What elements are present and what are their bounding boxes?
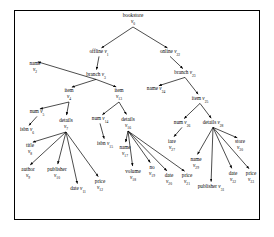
node-label: num xyxy=(92,115,101,121)
tree-node-v5: num v5 xyxy=(30,108,45,117)
tree-node-v20: datev20 xyxy=(165,172,174,188)
node-id: v6 xyxy=(30,126,34,132)
tree-node-v30: storev30 xyxy=(235,138,245,154)
figure-root: bookstorev0offline v1online v22namev2bra… xyxy=(0,0,274,237)
node-id: v22 xyxy=(174,48,180,54)
node-id: v18 xyxy=(125,174,141,183)
node-id: v8 xyxy=(26,148,34,157)
tree-edge-v28-v31 xyxy=(211,127,213,181)
tree-node-v11: date v11 xyxy=(70,185,86,194)
tree-node-v7: detailsv7 xyxy=(59,117,73,133)
tree-edge-v13-v14 xyxy=(102,102,119,115)
tree-node-v24: name v24 xyxy=(147,85,165,94)
tree-edge-v23-v25 xyxy=(185,77,198,94)
tree-node-v29: namev29 xyxy=(190,156,201,172)
node-id: v32 xyxy=(229,176,238,185)
node-id: v23 xyxy=(190,69,196,75)
tree-edge-v7-v8 xyxy=(33,132,66,142)
node-id: v30 xyxy=(235,144,245,153)
node-id: v0 xyxy=(123,18,143,27)
node-label: item xyxy=(192,95,201,101)
tree-edge-v23-v24 xyxy=(159,77,185,85)
node-id: v21 xyxy=(182,178,192,187)
tree-node-v27: iarev27 xyxy=(168,138,176,154)
tree-edge-v25-v28 xyxy=(200,103,211,118)
tree-node-v33: pricev33 xyxy=(246,170,256,186)
tree-node-v16: detailsv16 xyxy=(121,116,135,132)
tree-node-v2: namev2 xyxy=(29,60,40,76)
tree-node-v6: isbn v6 xyxy=(20,126,34,135)
tree-node-v31: publisher v31 xyxy=(198,183,225,192)
tree-node-v28: details v28 xyxy=(203,119,224,128)
tree-edge-v13-v16 xyxy=(119,102,126,114)
node-id: v15 xyxy=(107,140,113,146)
node-id: v31 xyxy=(218,183,224,189)
node-id: v5 xyxy=(40,108,44,114)
node-id: v26 xyxy=(184,119,190,125)
node-label: num xyxy=(174,119,183,125)
node-id: v19 xyxy=(149,170,155,179)
tree-edge-v1-v3 xyxy=(97,56,99,69)
node-label: num xyxy=(30,108,39,114)
node-id: v11 xyxy=(80,185,86,191)
node-id: v1 xyxy=(104,48,108,54)
node-id: v10 xyxy=(47,172,66,181)
tree-node-v17: namev17 xyxy=(119,144,130,160)
tree-edge-v25-v26 xyxy=(184,103,200,118)
node-id: v24 xyxy=(159,85,165,91)
node-id: v25 xyxy=(202,95,208,101)
node-id: v16 xyxy=(121,122,135,131)
node-label: publisher xyxy=(198,183,217,189)
node-id: v20 xyxy=(165,178,174,187)
node-label: branch xyxy=(86,71,100,77)
node-id: v17 xyxy=(119,150,130,159)
tree-edge-v5-v6 xyxy=(29,116,37,125)
tree-edge-v0-v22 xyxy=(133,27,167,48)
tree-edge-v28-v32 xyxy=(213,127,232,168)
tree-edge-v3-v4 xyxy=(72,79,96,87)
node-label: online xyxy=(160,48,173,54)
edge-layer xyxy=(0,0,274,237)
node-label: isbn xyxy=(97,140,106,146)
node-id: v4 xyxy=(64,93,73,102)
tree-node-v25: item v25 xyxy=(192,95,208,104)
tree-edge-v28-v30 xyxy=(213,127,237,137)
node-id: v9 xyxy=(21,172,34,181)
tree-node-v14: num v14 xyxy=(92,115,108,124)
node-label: offline xyxy=(89,48,103,54)
node-label: details xyxy=(203,119,217,125)
node-id: v29 xyxy=(190,162,201,171)
node-id: v2 xyxy=(29,66,40,75)
tree-edge-v0-v1 xyxy=(102,27,134,48)
node-id: v3 xyxy=(102,71,106,77)
tree-node-v8: titlev8 xyxy=(26,142,34,158)
tree-node-v18: volumev18 xyxy=(125,168,141,184)
tree-edge-v16-v21 xyxy=(128,131,185,171)
tree-edge-v16-v20 xyxy=(128,131,167,171)
tree-edge-v16-v17 xyxy=(126,131,128,142)
tree-node-v4: itemv4 xyxy=(64,87,73,103)
node-id: v13 xyxy=(114,93,123,102)
node-id: v7 xyxy=(59,123,73,132)
tree-node-v23: branch v23 xyxy=(174,69,195,78)
tree-node-v21: pricev21 xyxy=(182,172,192,188)
tree-edge-v22-v23 xyxy=(170,56,183,68)
tree-edge-v7-v9 xyxy=(30,132,66,165)
tree-edge-v3-v13 xyxy=(96,79,116,87)
tree-node-v19: nov19 xyxy=(149,164,155,180)
tree-edge-v28-v29 xyxy=(197,127,213,154)
tree-node-v22: online v22 xyxy=(160,48,180,57)
tree-node-v26: num v26 xyxy=(174,119,190,128)
tree-edge-v14-v15 xyxy=(100,123,104,138)
node-label: name xyxy=(147,85,158,91)
tree-node-v15: isbn v15 xyxy=(97,140,113,149)
node-label: isbn xyxy=(20,126,29,132)
node-id: v12 xyxy=(95,184,105,193)
tree-node-v3: branch v3 xyxy=(86,71,106,80)
tree-node-v13: itemv13 xyxy=(114,87,123,103)
tree-node-v0: bookstorev0 xyxy=(123,12,143,28)
tree-edge-v7-v10 xyxy=(58,132,66,164)
node-label: branch xyxy=(174,69,188,75)
tree-node-v12: pricev12 xyxy=(95,178,105,194)
tree-edge-v4-v7 xyxy=(67,102,69,115)
